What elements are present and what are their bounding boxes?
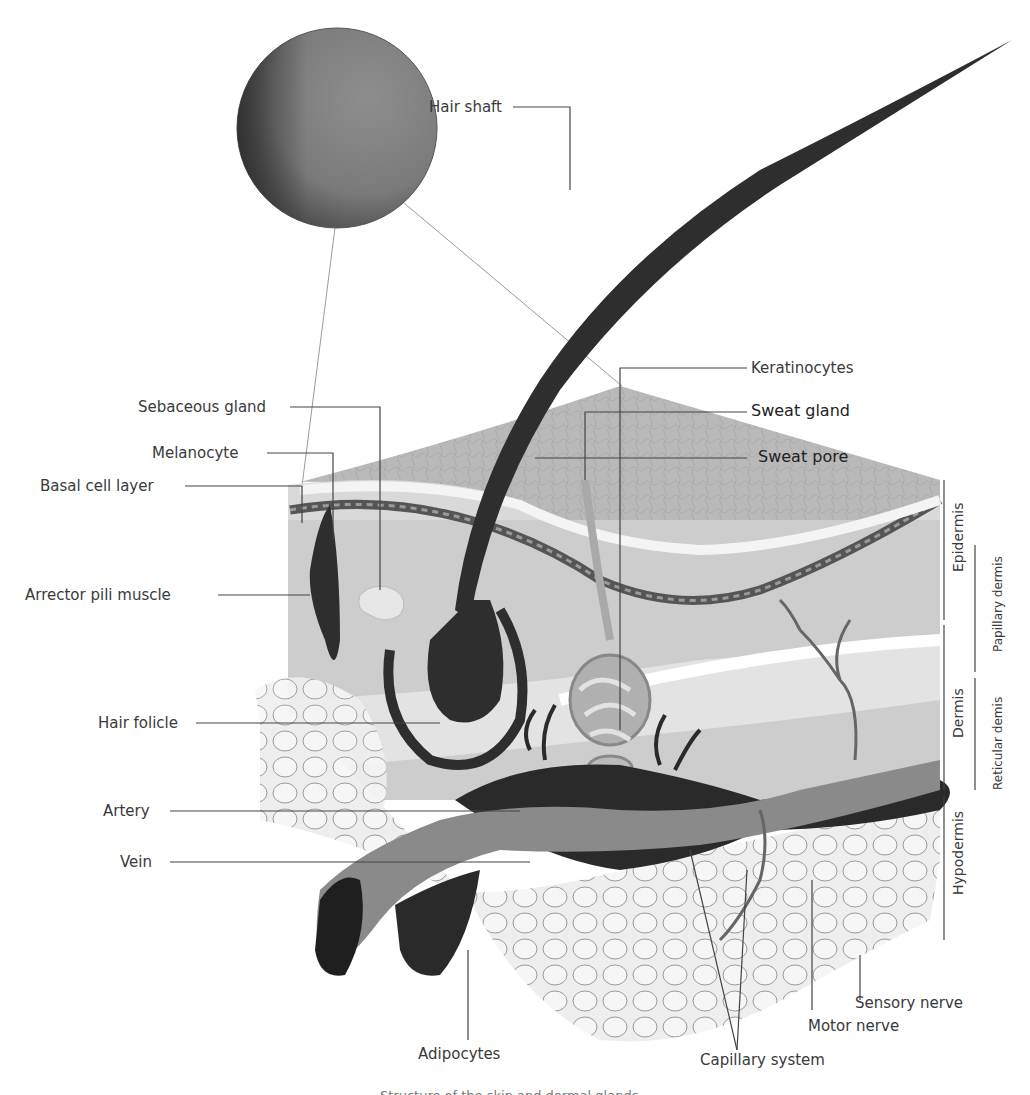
layer-label-hypodermis: Hypodermis bbox=[950, 811, 966, 895]
label-motor-nerve: Motor nerve bbox=[808, 1017, 899, 1035]
label-hair-follicle: Hair folicle bbox=[98, 714, 178, 732]
layer-label-dermis: Dermis bbox=[950, 688, 966, 738]
diagram-canvas bbox=[0, 0, 1030, 1095]
label-artery: Artery bbox=[103, 802, 150, 820]
label-sebaceous-gland: Sebaceous gland bbox=[138, 398, 266, 416]
label-basal-cell-layer: Basal cell layer bbox=[40, 477, 154, 495]
label-adipocytes: Adipocytes bbox=[418, 1045, 500, 1063]
label-hair-shaft: Hair shaft bbox=[429, 98, 502, 116]
layer-label-papillary-dermis: Papillary dermis bbox=[990, 556, 1006, 652]
figure-caption: Structure of the skin and dermal glands bbox=[380, 1083, 780, 1095]
label-keratinocytes: Keratinocytes bbox=[751, 359, 853, 377]
label-vein: Vein bbox=[120, 853, 152, 871]
layer-label-reticular-dermis: Reticular demis bbox=[990, 697, 1006, 790]
skin-anatomy-diagram: Hair shaft Sebaceous gland Melanocyte Ba… bbox=[0, 0, 1030, 1095]
label-melanocyte: Melanocyte bbox=[152, 444, 238, 462]
label-arrector-pili-muscle: Arrector pili muscle bbox=[25, 586, 171, 604]
label-sensory-nerve: Sensory nerve bbox=[855, 994, 963, 1012]
layer-label-epidermis: Epidermis bbox=[950, 503, 966, 572]
label-capillary-system: Capillary system bbox=[700, 1051, 825, 1069]
label-sweat-pore: Sweat pore bbox=[758, 448, 848, 466]
label-sweat-gland: Sweat gland bbox=[751, 402, 850, 420]
